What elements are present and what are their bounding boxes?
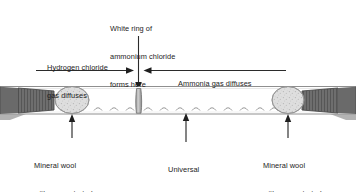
label-hydrogen-chloride-line-2: gas diffuses (47, 91, 108, 100)
label-white-ring-line-3: forms here (110, 80, 175, 89)
label-indicator-paper-line-1: Universal (168, 165, 199, 174)
label-white-ring-line-1: White ring of (110, 24, 175, 33)
label-mineral-wool-right-line-2: with concentrated (263, 189, 322, 192)
rubber-bung-left (0, 87, 54, 114)
indicator-leader (183, 113, 189, 142)
label-hydrogen-chloride-line-1: Hydrogen chloride (47, 63, 108, 72)
label-mineral-wool-left: Mineral wool with concentrated hydrochlo… (34, 142, 93, 192)
label-hydrogen-chloride: Hydrogen chloride gas diffuses (47, 44, 108, 119)
label-white-ring-line-2: ammonium chloride (110, 52, 175, 61)
label-white-ring: White ring of ammonium chloride forms he… (110, 5, 175, 108)
label-mineral-wool-left-line-1: Mineral wool (34, 161, 93, 170)
rubber-bung-right (302, 87, 356, 114)
wool-right-leader (285, 114, 291, 138)
label-mineral-wool-right: Mineral wool with concentrated ammonia s… (263, 142, 322, 192)
label-indicator-paper: Universal indicator paper (168, 146, 199, 192)
label-mineral-wool-left-line-2: with concentrated (34, 189, 93, 192)
label-mineral-wool-right-line-1: Mineral wool (263, 161, 322, 170)
diffusion-diagram: White ring of ammonium chloride forms he… (0, 0, 356, 192)
label-ammonia-line-1: Ammonia gas diffuses (178, 79, 252, 88)
label-ammonia: Ammonia gas diffuses (178, 60, 252, 107)
